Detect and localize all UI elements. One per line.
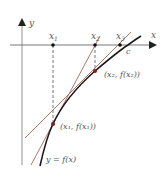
p1-point	[51, 122, 55, 126]
curve-label: y = f(x)	[45, 155, 76, 164]
p2-label: (x₂, f(x₂))	[104, 70, 140, 79]
x2-label: x2	[91, 31, 100, 42]
x3-label: x3	[116, 31, 125, 42]
x2-point	[93, 43, 97, 47]
y-axis-label: y	[28, 18, 35, 28]
x1-point	[51, 43, 55, 47]
x-axis-label: x	[151, 30, 156, 40]
newton-method-diagram: y x x1 x2 x3 c (x₂, f(x₂)) (x₁, f(x₁)) y…	[0, 0, 164, 178]
root-label: c	[126, 47, 131, 56]
x1-label: x1	[49, 31, 58, 42]
x-axis-arrow-icon	[149, 41, 157, 49]
x3-point	[118, 43, 122, 47]
p2-point	[93, 69, 97, 73]
p1-label: (x₁, f(x₁))	[60, 122, 96, 131]
y-axis-arrow-icon	[18, 18, 26, 26]
tangent-line-x1	[31, 36, 100, 165]
